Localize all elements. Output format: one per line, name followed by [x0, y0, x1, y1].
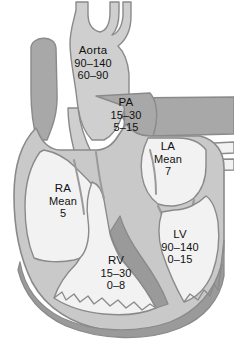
label-right-ventricle: RV 15–30 0–8	[88, 254, 144, 292]
label-la-measure: Mean	[146, 153, 190, 165]
heart-pressure-diagram: Aorta 90–140 60–90 PA 15–30 5–15 LA Mean…	[0, 0, 234, 346]
label-lv-diastolic: 0–15	[150, 253, 210, 265]
label-lv-systolic: 90–140	[150, 241, 210, 253]
label-left-ventricle: LV 90–140 0–15	[150, 228, 210, 266]
superior-vena-cava	[31, 38, 57, 140]
label-rv-systolic: 15–30	[88, 267, 144, 279]
label-aorta: Aorta 90–140 60–90	[60, 44, 126, 82]
label-left-atrium: LA Mean 7	[146, 140, 190, 178]
label-rv-diastolic: 0–8	[88, 279, 144, 291]
label-pa-systolic: 15–30	[96, 109, 156, 121]
label-aorta-diastolic: 60–90	[60, 69, 126, 81]
label-lv-name: LV	[150, 228, 210, 241]
label-pulmonary-artery: PA 15–30 5–15	[96, 96, 156, 134]
label-ra-value: 5	[40, 207, 86, 219]
label-right-atrium: RA Mean 5	[40, 182, 86, 220]
label-ra-measure: Mean	[40, 195, 86, 207]
label-ra-name: RA	[40, 182, 86, 195]
label-rv-name: RV	[88, 254, 144, 267]
label-aorta-systolic: 90–140	[60, 57, 126, 69]
label-pa-diastolic: 5–15	[96, 121, 156, 133]
label-pa-name: PA	[96, 96, 156, 109]
label-la-name: LA	[146, 140, 190, 153]
label-aorta-name: Aorta	[60, 44, 126, 57]
label-la-value: 7	[146, 165, 190, 177]
